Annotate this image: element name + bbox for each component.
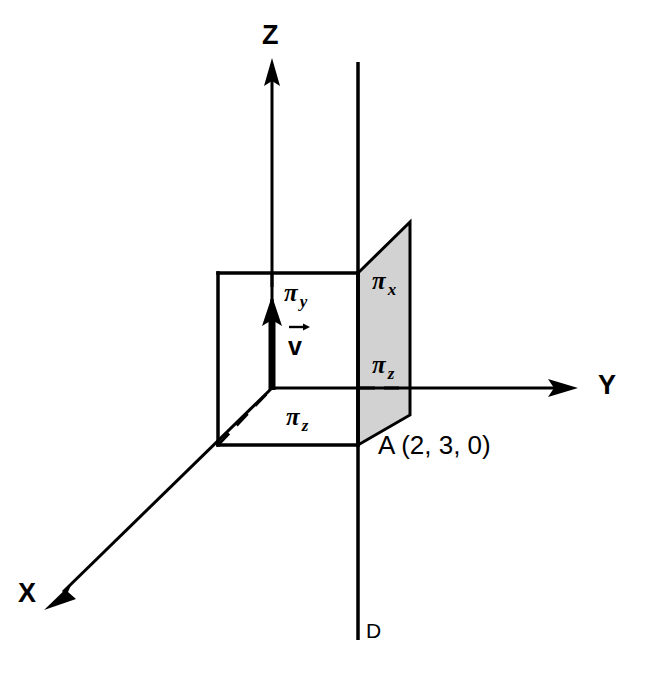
axis-y-label: Y xyxy=(598,372,616,399)
line-d-label: D xyxy=(366,620,381,641)
vector-arrow-accent-icon xyxy=(288,321,310,331)
plane-label-pi-x: πx xyxy=(372,268,396,298)
vector-v-text: v xyxy=(288,332,302,360)
axis-x-arrowhead xyxy=(44,583,76,610)
pi-z-right-subscript: z xyxy=(386,364,395,383)
plane-label-pi-z-bottom: πz xyxy=(286,404,308,434)
plane-label-pi-z-right: πz xyxy=(372,352,394,382)
axis-z-label: Z xyxy=(262,22,279,49)
vector-v-letter: v xyxy=(288,334,302,359)
pi-y-subscript: y xyxy=(298,292,308,311)
pi-z-bottom-subscript: z xyxy=(300,416,309,435)
pi-x-symbol: π xyxy=(372,267,386,294)
figure-canvas: Z Y X D πy πx πz πz v A (2, 3, 0) xyxy=(0,0,648,684)
axis-x-line xyxy=(63,388,272,592)
diagram-svg xyxy=(0,0,648,684)
pi-y-symbol: π xyxy=(284,279,298,306)
plane-label-pi-y: πy xyxy=(284,280,307,310)
pi-z-bottom-symbol: π xyxy=(286,403,300,430)
axis-x-label: X xyxy=(18,580,36,607)
pi-z-right-symbol: π xyxy=(372,351,386,378)
pi-x-subscript: x xyxy=(386,280,397,299)
shaded-plane-pi-x xyxy=(358,222,410,445)
vector-v-label: v xyxy=(288,334,302,359)
point-a-label: A (2, 3, 0) xyxy=(378,432,491,458)
